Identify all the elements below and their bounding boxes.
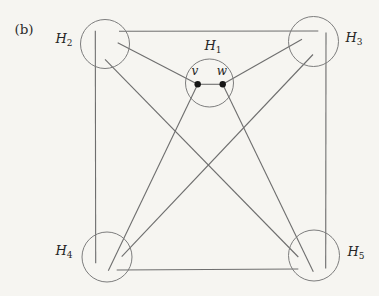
edge-H4-H5-line (117, 269, 299, 270)
cluster-H1-label-subscript: 1 (216, 45, 222, 55)
cluster-H3-label-subscript: 3 (357, 37, 363, 47)
cluster-H2-label-subscript: 2 (67, 38, 73, 48)
cluster-H5-label-letter: H (347, 244, 358, 259)
cluster-H3-label: H3 (345, 31, 362, 47)
cluster-H5-label: H5 (347, 245, 364, 261)
cluster-H3-circle (289, 17, 339, 67)
edge-w-H5-line (223, 84, 314, 271)
cluster-H1-label: H1 (204, 39, 221, 55)
panel-label: (b) (14, 21, 33, 37)
vertex-v-dot (195, 81, 201, 87)
edge-w-H3-line (223, 39, 302, 84)
cluster-H2-label: H2 (55, 32, 72, 48)
cluster-H3-label-letter: H (345, 30, 356, 45)
cluster-H5-label-subscript: 5 (359, 251, 365, 261)
cluster-H4-label-subscript: 4 (67, 250, 73, 260)
edge-v-H4-line (108, 84, 197, 270)
cluster-H2-circle (81, 20, 130, 69)
cluster-H1-label-letter: H (204, 38, 215, 53)
cluster-H2-label-letter: H (55, 31, 66, 46)
vertex-v-label: v (192, 65, 199, 77)
vertex-w-dot (220, 81, 226, 87)
edge-H2-H5-line (105, 59, 298, 257)
cluster-H4-label: H4 (55, 244, 72, 260)
vertex-w-label: w (217, 65, 227, 77)
cluster-H4-label-letter: H (55, 243, 66, 258)
cluster-H4-circle (82, 232, 132, 282)
graph-figure: (b) H1H2H3H4H5vw (0, 0, 379, 296)
